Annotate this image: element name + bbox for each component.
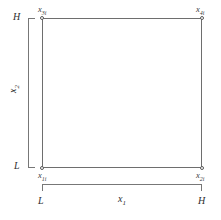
vertex-marker-top-right: [200, 16, 204, 20]
vertex-label-bottom-left: x1i: [38, 171, 46, 180]
vertex-label-bottom-right: x2i: [196, 171, 204, 180]
vertex-label-top-right-sub: 4i: [200, 10, 205, 16]
vertical-axis-title-sub: 2: [13, 85, 21, 89]
vertex-marker-bottom-right: [200, 166, 204, 170]
vertex-label-top-left-sub: 3i: [42, 10, 47, 16]
design-domain-square: [42, 18, 202, 168]
vertex-label-bottom-left-sub: 1i: [42, 176, 47, 182]
vertex-marker-top-left: [40, 16, 44, 20]
vertex-label-top-left: x3i: [38, 5, 46, 14]
horizontal-range-bracket: [42, 184, 202, 191]
vertical-range-bracket: [28, 18, 35, 168]
vertical-axis-low-label: L: [14, 161, 20, 171]
vertical-axis-high-label: H: [13, 12, 20, 22]
vertical-axis-title-base: x: [7, 89, 18, 93]
domain-diagram-figure: x3i x4i x1i x2i H L x2 L H x1: [0, 0, 221, 220]
horizontal-axis-title-sub: 1: [122, 199, 126, 207]
vertex-label-bottom-right-sub: 2i: [200, 176, 205, 182]
vertex-label-top-right: x4i: [196, 5, 204, 14]
vertical-axis-title: x2: [8, 74, 18, 104]
horizontal-axis-title: x1: [42, 194, 202, 204]
